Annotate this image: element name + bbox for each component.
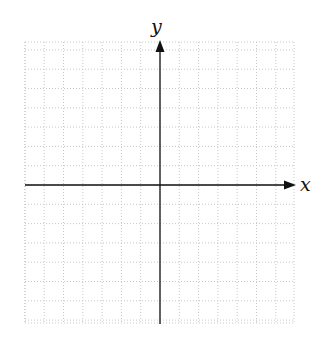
x-axis-arrow-icon [284, 181, 296, 190]
coordinate-plane: x y [0, 0, 322, 347]
y-axis-label: y [150, 15, 162, 37]
x-axis-label: x [300, 173, 311, 195]
